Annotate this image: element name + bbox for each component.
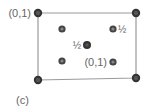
corner-atom-top-right bbox=[132, 9, 140, 17]
height-label-lower-right: (0,1) bbox=[84, 56, 107, 68]
inner-atom-upper-left bbox=[58, 25, 65, 32]
inner-atom-lower-left bbox=[58, 57, 65, 64]
corner-atom-bottom-left bbox=[34, 76, 42, 84]
inner-atom-upper-right bbox=[109, 25, 116, 32]
height-label-upper-right: ½ bbox=[118, 24, 127, 35]
inner-atom-lower-right bbox=[109, 58, 116, 65]
height-label-center: ½ bbox=[73, 40, 82, 51]
panel-label: (c) bbox=[16, 94, 29, 106]
corner-atom-bottom-right bbox=[132, 74, 140, 82]
center-atom bbox=[83, 41, 91, 49]
unit-cell-diagram: (0,1) ½ ½ (0,1) (c) bbox=[0, 0, 152, 112]
corner-atom-top-left bbox=[34, 9, 42, 17]
corner-label-top-left: (0,1) bbox=[8, 7, 31, 19]
